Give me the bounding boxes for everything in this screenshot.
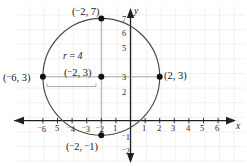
point-center	[98, 74, 104, 80]
x-tick-neg-2: –2	[96, 124, 104, 133]
y-tick-pos-5: 5	[122, 44, 126, 53]
coordinate-plane-figure: x y (–2, 7) (–6, 3) (–2, 3) (2, 3) (–2, …	[0, 0, 247, 166]
x-tick-pos-6: 6	[215, 124, 219, 133]
y-tick-neg-1: –1	[122, 132, 130, 141]
x-tick-pos-4: 4	[186, 124, 190, 133]
y-tick-pos-3: 3	[122, 73, 126, 82]
x-tick-pos-1: 1	[142, 124, 146, 133]
point-label-right: (2, 3)	[164, 71, 187, 82]
x-tick-neg-4: –4	[67, 124, 75, 133]
y-tick-pos-2: 2	[122, 88, 126, 97]
point-label-center: (–2, 3)	[64, 66, 91, 79]
x-tick-neg-6: –6	[38, 124, 46, 133]
x-axis-label: x	[236, 122, 240, 132]
x-tick-pos-3: 3	[171, 124, 175, 133]
x-tick-neg-5: 5	[55, 124, 59, 133]
x-tick-neg-3: –3	[82, 124, 90, 133]
x-tick-pos-2: 2	[157, 124, 161, 133]
y-tick-pos-7: 7	[122, 15, 126, 24]
y-tick-pos-6: 6	[122, 29, 126, 38]
x-tick-neg-1: 1	[113, 124, 117, 133]
radius-annotation: r = 4	[63, 51, 83, 61]
point-label-top: (–2, 7)	[72, 5, 99, 18]
x-tick-pos-5: 5	[200, 124, 204, 133]
point-label-left: (–6, 3)	[3, 71, 30, 84]
y-axis-label: y	[134, 7, 138, 17]
y-tick-neg-2: –2	[122, 146, 130, 155]
point-label-bottom: (–2, –1)	[66, 140, 98, 153]
point-right	[157, 74, 163, 80]
point-left	[40, 74, 46, 80]
